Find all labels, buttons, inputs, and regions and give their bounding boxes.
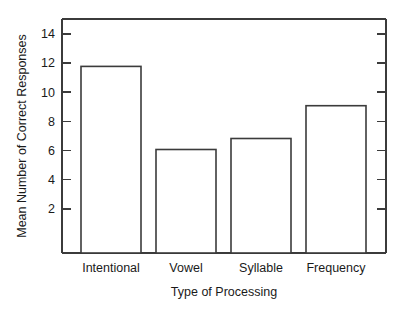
x-label-frequency: Frequency (306, 261, 366, 275)
y-axis-title: Mean Number of Correct Responses (15, 34, 29, 238)
bar-vowel[interactable] (156, 150, 216, 254)
bar-chart-figure: 14 12 10 8 6 4 2 Intentional Vowel Sylla… (0, 0, 409, 310)
chart-canvas: 14 12 10 8 6 4 2 Intentional Vowel Sylla… (0, 0, 409, 310)
x-label-syllable: Syllable (239, 261, 283, 275)
y-tick-label-14: 14 (41, 27, 55, 41)
y-tick-label-4: 4 (48, 173, 55, 187)
x-axis-title: Type of Processing (171, 285, 277, 299)
y-tick-label-6: 6 (48, 144, 55, 158)
x-label-vowel: Vowel (169, 261, 202, 275)
bar-syllable[interactable] (231, 139, 291, 254)
bar-intentional[interactable] (81, 66, 141, 253)
y-tick-label-8: 8 (48, 115, 55, 129)
x-label-intentional: Intentional (82, 261, 140, 275)
bar-frequency[interactable] (306, 106, 366, 253)
y-tick-label-12: 12 (41, 56, 55, 70)
y-tick-label-2: 2 (48, 202, 55, 216)
y-tick-label-10: 10 (41, 86, 55, 100)
